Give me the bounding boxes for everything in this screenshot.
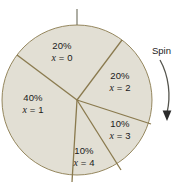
sector-percent-x4: 10% bbox=[64, 145, 104, 157]
sector-value-x1: x = 1 bbox=[13, 104, 53, 116]
sector-percent-x3: 10% bbox=[100, 118, 140, 130]
sector-label-x2: 20% x = 2 bbox=[100, 70, 140, 93]
sector-label-x1: 40% x = 1 bbox=[13, 92, 53, 115]
sector-percent-x0: 20% bbox=[42, 40, 82, 52]
sector-percent-x2: 20% bbox=[100, 70, 140, 82]
spin-arrow-icon bbox=[160, 60, 171, 121]
sector-label-x0: 20% x = 0 bbox=[42, 40, 82, 63]
sector-value-x0: x = 0 bbox=[42, 52, 82, 64]
sector-value-x3: x = 3 bbox=[100, 130, 140, 142]
sector-label-x3: 10% x = 3 bbox=[100, 118, 140, 141]
sector-value-x4: x = 4 bbox=[64, 157, 104, 169]
sector-value-x2: x = 2 bbox=[100, 82, 140, 94]
spinner-figure: 20% x = 0 20% x = 2 40% x = 1 10% x = 3 … bbox=[0, 0, 188, 182]
spin-caption: Spin bbox=[152, 45, 171, 56]
sector-percent-x1: 40% bbox=[13, 92, 53, 104]
sector-label-x4: 10% x = 4 bbox=[64, 145, 104, 168]
